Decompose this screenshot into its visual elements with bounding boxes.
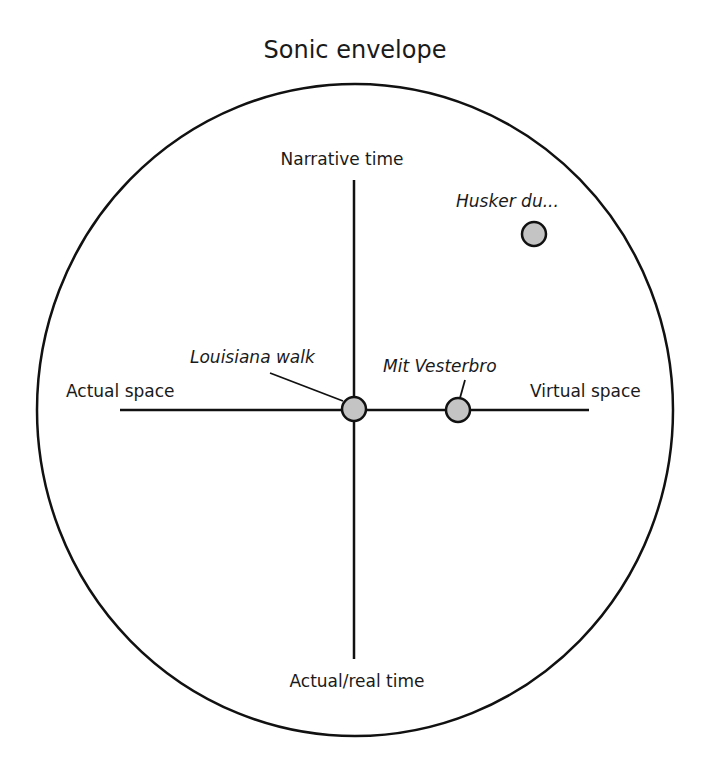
axis-label-left: Actual space [66, 381, 175, 401]
diagram-title: Sonic envelope [264, 36, 447, 64]
axis-label-right: Virtual space [530, 381, 641, 401]
dot-mit-vesterbro [446, 398, 470, 422]
axis-label-top: Narrative time [281, 149, 404, 169]
dot-louisiana-walk [342, 397, 366, 421]
label-mit-vesterbro: Mit Vesterbro [383, 356, 497, 376]
sonic-envelope-diagram: Sonic envelope Narrative time Actual/rea… [0, 0, 705, 769]
leader-louisiana-walk [270, 373, 343, 401]
label-husker-du: Husker du... [456, 191, 559, 211]
axis-label-bottom: Actual/real time [289, 671, 424, 691]
leader-mit-vesterbro [460, 380, 465, 398]
dot-husker-du [522, 222, 546, 246]
label-louisiana-walk: Louisiana walk [190, 347, 316, 367]
